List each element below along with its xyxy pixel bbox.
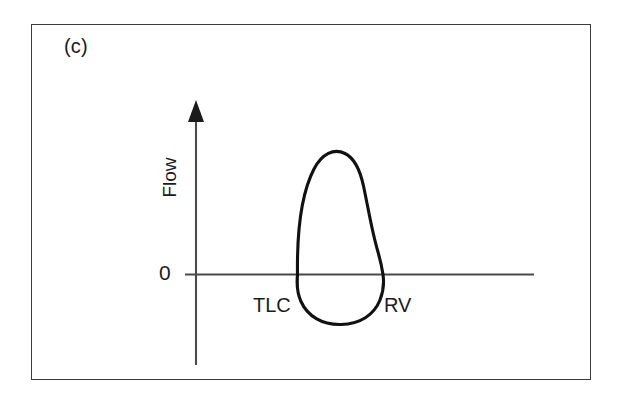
annotation-rv: RV [384,295,411,315]
annotation-tlc: TLC [253,295,291,315]
y-axis-arrow-icon [188,100,204,122]
figure-root: (c) 0 Flow TLC RV [0,0,621,402]
y-axis-zero-label: 0 [159,262,171,283]
flow-volume-loop-plot [0,0,621,402]
y-axis-label: Flow [160,152,179,204]
flow-volume-loop-curve [297,151,383,324]
